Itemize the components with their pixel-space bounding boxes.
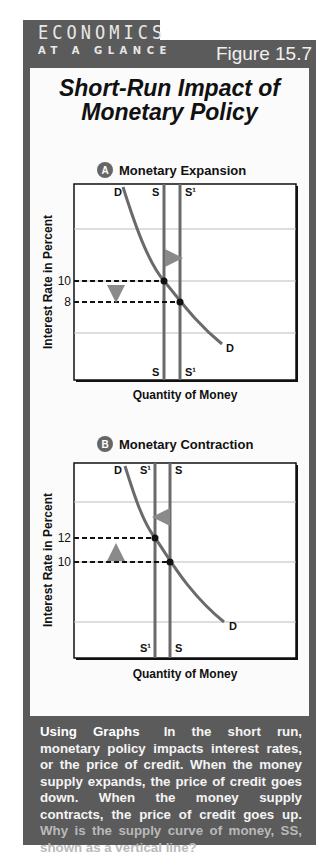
- label-s-bottom: S: [175, 642, 182, 654]
- equilibrium-point: [167, 559, 174, 566]
- ytick-12: 12: [58, 531, 72, 545]
- caption-heading: Using Graphs: [40, 724, 140, 739]
- plot-area: [74, 463, 296, 658]
- label-s1-top: S¹: [140, 464, 151, 476]
- equilibrium-point: [152, 535, 159, 542]
- label-s-top: S: [175, 464, 182, 476]
- caption-question: Why is the supply curve of money, SS, sh…: [40, 823, 302, 855]
- x-axis-label: Quantity of Money: [133, 667, 238, 681]
- label-s1-bottom: S¹: [140, 642, 151, 654]
- ytick-10: 10: [58, 555, 72, 569]
- y-axis-label: Interest Rate in Percent: [41, 493, 55, 627]
- caption: Using Graphs In the short run, monetary …: [40, 724, 302, 856]
- label-d-bottom: D: [229, 620, 237, 632]
- label-d-top: D: [114, 464, 122, 476]
